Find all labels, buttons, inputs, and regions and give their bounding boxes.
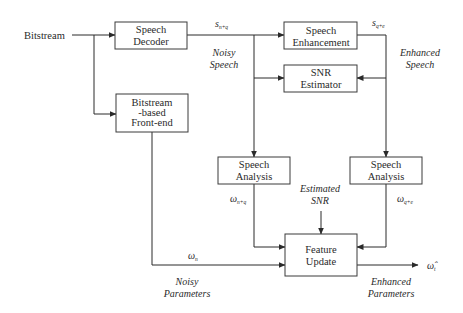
block-snr-estimator: SNR Estimator xyxy=(284,65,357,92)
block-feature-update: Feature Update xyxy=(285,234,357,276)
wire-enhanced-speech-bus xyxy=(357,35,386,157)
signal-omega-noisy-analysis: ωn+q xyxy=(230,193,247,205)
noisy-speech-line2: Speech xyxy=(210,59,238,70)
feature-update-label-line2: Update xyxy=(306,256,337,267)
noisy-params-line2: Parameters xyxy=(163,288,211,299)
block-diagram: Bitstream Speech Decoder Speech Enhancem… xyxy=(0,0,463,313)
frontend-label-line3: Front-end xyxy=(131,117,173,128)
speech-analysis-noisy-label-line2: Analysis xyxy=(236,171,273,182)
snr-estimator-label-line1: SNR xyxy=(311,67,331,78)
signal-omega-noisy-params: ωn xyxy=(188,250,198,262)
speech-analysis-enhanced-label-line2: Analysis xyxy=(368,171,405,182)
bitstream-input-label: Bitstream xyxy=(24,30,65,41)
noisy-params-line1: Noisy xyxy=(175,276,199,287)
signal-s-enhanced: sq+e xyxy=(372,17,385,29)
enhanced-params-line2: Parameters xyxy=(367,288,415,299)
block-speech-analysis-noisy: Speech Analysis xyxy=(218,157,290,184)
annotation-estimated-snr: Estimated SNR xyxy=(299,183,341,206)
noisy-speech-line1: Noisy xyxy=(212,47,236,58)
enhanced-speech-line2: Speech xyxy=(406,59,434,70)
annotation-enhanced-parameters: Enhanced Parameters xyxy=(367,276,415,299)
speech-analysis-enhanced-label-line1: Speech xyxy=(371,159,402,170)
wire-frontend-to-update xyxy=(152,132,285,265)
annotation-noisy-speech: Noisy Speech xyxy=(210,47,238,70)
block-speech-enhancement: Speech Enhancement xyxy=(284,22,357,49)
wire-enhanced-analysis-to-update xyxy=(357,184,386,247)
signal-s-noisy: sn+q xyxy=(215,18,228,30)
wire-bitstream-to-frontend xyxy=(94,35,116,114)
speech-decoder-label-line2: Decoder xyxy=(133,36,169,47)
speech-enhancement-label-line1: Speech xyxy=(306,25,337,36)
feature-update-label-line1: Feature xyxy=(305,244,337,255)
block-speech-decoder: Speech Decoder xyxy=(115,22,187,49)
snr-estimator-label-line2: Estimator xyxy=(301,79,342,90)
speech-enhancement-label-line2: Enhancement xyxy=(292,37,349,48)
enhanced-params-line1: Enhanced xyxy=(370,276,412,287)
block-bitstream-frontend: Bitstream -based Front-end xyxy=(116,94,188,132)
wire-noisy-analysis-to-update xyxy=(254,184,285,247)
signal-omega-enhanced-analysis: ωq+e xyxy=(397,193,414,205)
signal-omega-hat-output: ω̂t xyxy=(427,260,438,272)
connections xyxy=(72,35,418,265)
block-speech-analysis-enhanced: Speech Analysis xyxy=(350,157,422,184)
speech-decoder-label-line1: Speech xyxy=(136,24,167,35)
annotation-noisy-parameters: Noisy Parameters xyxy=(163,276,211,299)
enhanced-speech-line1: Enhanced xyxy=(399,47,441,58)
estimated-snr-line1: Estimated xyxy=(299,183,341,194)
annotation-enhanced-speech: Enhanced Speech xyxy=(399,47,441,70)
speech-analysis-noisy-label-line1: Speech xyxy=(239,159,270,170)
estimated-snr-line2: SNR xyxy=(311,195,329,206)
